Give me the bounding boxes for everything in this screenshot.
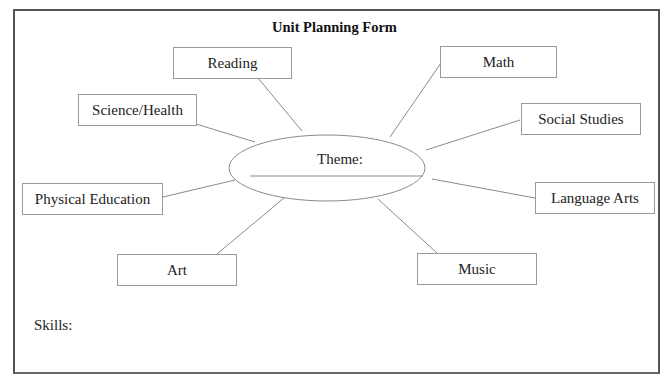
subject-box-music: Music [417,253,537,285]
subject-box-art: Art [117,254,237,286]
skills-label: Skills: [34,317,72,334]
subject-box-language-arts: Language Arts [535,182,655,214]
subject-box-physical-education: Physical Education [22,183,163,215]
subject-box-science-health: Science/Health [78,94,197,126]
theme-ellipse [229,135,425,201]
subject-box-reading: Reading [173,47,292,79]
subject-box-social-studies: Social Studies [521,103,641,135]
subject-box-math: Math [440,46,557,78]
theme-label: Theme: [300,151,380,168]
